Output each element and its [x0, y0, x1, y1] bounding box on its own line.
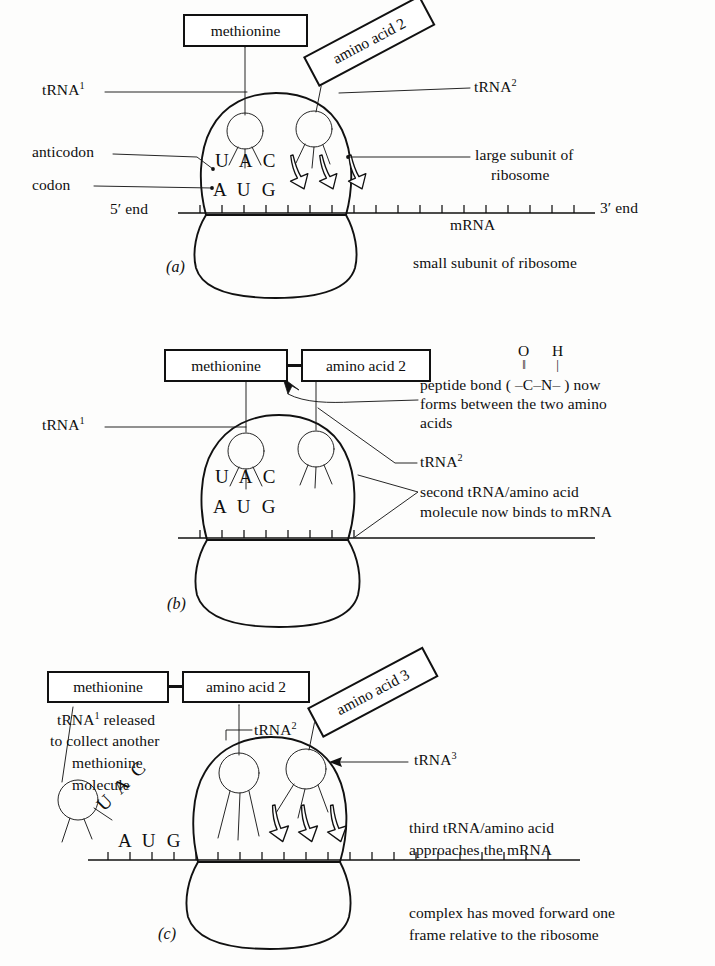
trna-2-label: tRNA2 — [420, 452, 463, 471]
translation-figure: (a) methionine amino acid 2 tRNA1 tRNA2 … — [0, 0, 715, 966]
peptide-bond-text-line2: forms between the two amino — [420, 395, 715, 414]
codon-bases: A U G — [213, 179, 279, 201]
second-trna-note-line2: molecule now binds to mRNA — [420, 503, 612, 522]
codon-bases: A U G — [213, 496, 279, 518]
large-subunit-label-line2: ribosome — [491, 166, 550, 184]
peptide-bond-text-line1: peptide bond ( –C–N– ) now — [420, 376, 715, 395]
peptide-bond-dash — [288, 364, 302, 367]
anticodon-bases: U A C — [215, 466, 279, 488]
anticodon-leader-line — [113, 154, 213, 169]
three-prime-end-label: 3′ end — [600, 199, 638, 217]
moved-frame-note-line1: complex has moved forward one — [409, 904, 615, 923]
large-subunit-label-line1: large subunit of — [475, 146, 574, 164]
small-subunit-label: small subunit of ribosome — [413, 254, 577, 272]
peptide-bond-text-line3: acids — [420, 414, 715, 433]
peptide-bond-atom-O: O ‖ — [518, 344, 529, 371]
third-trna-note-line2: approaches the mRNA — [409, 841, 552, 860]
trna-1-label: tRNA1 — [42, 80, 85, 99]
codon-bases: A U G — [118, 830, 184, 852]
second-trna-note-line1: second tRNA/amino acid — [420, 483, 579, 502]
mrna-tick-marks — [200, 205, 574, 213]
trna-2-label: tRNA2 — [254, 720, 297, 739]
codon-label: codon — [32, 176, 70, 194]
methionine-box[interactable]: methionine — [183, 14, 308, 47]
trna-1-label: tRNA1 — [42, 415, 85, 434]
trna2-leader-line — [339, 88, 470, 93]
motion-arrows-group — [264, 804, 351, 841]
panel-c-label: (c) — [158, 925, 176, 943]
small-subunit-shape — [195, 540, 359, 627]
released-trna-note-line1: tRNA1 released — [57, 710, 155, 730]
large-subunit-leader-dot — [346, 155, 350, 159]
amino-acid-2-box[interactable]: amino acid 2 — [182, 671, 310, 703]
trna-2-label: tRNA2 — [474, 77, 517, 96]
peptide-bond-dash — [169, 685, 183, 688]
methionine-box[interactable]: methionine — [47, 671, 169, 703]
small-subunit-shape — [194, 215, 356, 298]
moved-frame-note-line2: frame relative to the ribosome — [409, 926, 599, 945]
trna-2-molecule — [296, 82, 332, 168]
amino-acid-2-box-label: amino acid 2 — [326, 357, 406, 375]
trna-3-label: tRNA3 — [414, 750, 457, 769]
trna-2-molecule — [218, 705, 259, 840]
second-trna-leader-line — [355, 475, 418, 537]
mrna-label: mRNA — [450, 216, 495, 234]
released-trna-note-line2: to collect another — [50, 732, 159, 751]
panel-b-label: (b) — [167, 595, 186, 613]
amino-acid-2-box-label: amino acid 2 — [206, 678, 286, 696]
peptide-bond-atom-H: H | — [552, 344, 563, 371]
codon-leader-line — [94, 186, 212, 188]
methionine-box-label: methionine — [211, 22, 281, 40]
anticodon-label: anticodon — [32, 143, 94, 161]
amino-acid-2-box[interactable]: amino acid 2 — [301, 349, 431, 382]
methionine-box[interactable]: methionine — [164, 349, 288, 382]
diagram-canvas — [0, 0, 715, 966]
peptide-bond-leader-line — [288, 394, 418, 402]
panel-a-label: (a) — [166, 258, 185, 276]
trna-2-molecule — [298, 382, 334, 488]
methionine-box-label: methionine — [191, 357, 261, 375]
small-subunit-shape — [186, 862, 350, 949]
anticodon-bases: U A C — [215, 150, 279, 172]
five-prime-end-label: 5′ end — [110, 200, 148, 218]
third-trna-note-line1: third tRNA/amino acid — [409, 819, 554, 838]
methionine-box-label: methionine — [73, 678, 143, 696]
mrna-tick-marks — [200, 530, 354, 538]
